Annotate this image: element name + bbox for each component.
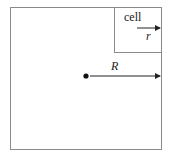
center-dot: [83, 73, 88, 78]
cell-label: cell: [124, 10, 142, 24]
r-label: r: [146, 29, 151, 43]
diagram-canvas: cell r R: [0, 0, 170, 157]
R-label: R: [110, 59, 119, 73]
